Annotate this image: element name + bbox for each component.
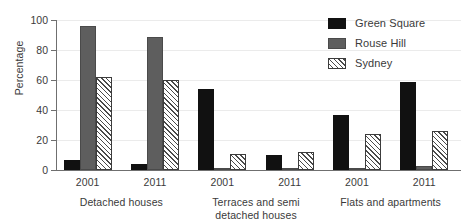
bar (282, 168, 298, 170)
legend-item: Rouse Hill (328, 34, 425, 52)
bar (365, 134, 381, 170)
bar (131, 164, 147, 170)
y-axis-tick-label-wrap: 60 (16, 75, 48, 85)
y-axis-tick-label-wrap: 0 (16, 165, 48, 175)
bar (163, 80, 179, 170)
legend-swatch-icon (328, 58, 346, 69)
y-axis-tick-label: 0 (20, 165, 48, 175)
legend-swatch-icon (328, 18, 346, 29)
legend-item: Sydney (328, 54, 425, 72)
x-axis-year-label: 2001 (192, 176, 252, 188)
chart-legend: Green SquareRouse HillSydney (328, 14, 425, 74)
bar (432, 131, 448, 170)
y-axis-tick-label: 80 (20, 45, 48, 55)
y-axis-tick-label: 20 (20, 135, 48, 145)
legend-label: Sydney (355, 57, 392, 69)
legend-label: Rouse Hill (355, 37, 406, 49)
bar (416, 166, 432, 171)
y-axis-tick-label-wrap: 100 (16, 15, 48, 25)
x-axis-year-label: 2011 (394, 176, 454, 188)
bar (333, 115, 349, 171)
bar (214, 168, 230, 170)
legend-label: Green Square (355, 17, 425, 29)
y-axis-tick-label: 60 (20, 75, 48, 85)
x-axis-year-label: 2001 (58, 176, 118, 188)
y-axis-tick-label-wrap: 40 (16, 105, 48, 115)
bar (64, 160, 80, 171)
bar (266, 155, 282, 170)
y-axis-tick-label-wrap: 80 (16, 45, 48, 55)
bar (198, 89, 214, 170)
x-axis-group-label: Flats and apartments (316, 196, 461, 209)
bar (230, 154, 246, 171)
x-axis-year-label: 2001 (327, 176, 387, 188)
bar (96, 77, 112, 170)
x-axis-year-label: 2011 (260, 176, 320, 188)
bar (298, 152, 314, 170)
y-axis-tick-label: 100 (20, 15, 48, 25)
legend-swatch-icon (328, 38, 346, 49)
x-axis-year-label: 2011 (125, 176, 185, 188)
legend-item: Green Square (328, 14, 425, 32)
x-axis-group-label: Terraces and semidetached houses (181, 196, 331, 221)
bar-chart: Percentage 020406080100 20012011Detached… (0, 0, 461, 223)
bar (147, 37, 163, 171)
x-axis-line (56, 170, 461, 171)
y-axis-tick-label-wrap: 20 (16, 135, 48, 145)
x-axis-group-label: Detached houses (46, 196, 196, 209)
bar (349, 168, 365, 170)
bar (400, 82, 416, 171)
bar (80, 26, 96, 170)
y-axis-tick-label: 40 (20, 105, 48, 115)
